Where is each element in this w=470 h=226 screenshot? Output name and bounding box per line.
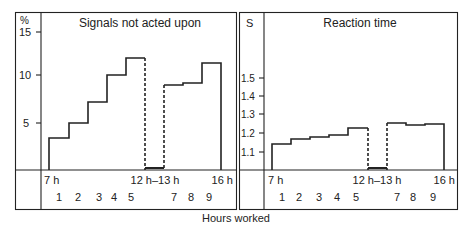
svg-text:1: 1 — [56, 191, 62, 203]
left-start-label: 7 h — [44, 174, 59, 186]
right-start-label: 7 h — [268, 174, 283, 186]
right-tick-1.4: 1.4 — [241, 91, 255, 102]
left-hour-labels: 1 2 3 4 5 7 8 9 — [56, 191, 212, 203]
left-unit: % — [20, 15, 29, 26]
right-title: Reaction time — [323, 16, 397, 30]
right-tick-1.1: 1.1 — [241, 147, 255, 158]
svg-text:2: 2 — [296, 191, 302, 203]
svg-text:5: 5 — [353, 191, 359, 203]
right-unit: S — [246, 17, 253, 29]
right-tick-1.5: 1.5 — [241, 73, 255, 84]
svg-text:1: 1 — [279, 191, 285, 203]
svg-text:7: 7 — [394, 191, 400, 203]
right-series — [272, 123, 444, 170]
left-tick-15: 15 — [19, 26, 31, 38]
svg-text:9: 9 — [206, 191, 212, 203]
right-tick-1.3: 1.3 — [241, 109, 255, 120]
svg-text:3: 3 — [96, 191, 102, 203]
right-tick-1.2: 1.2 — [241, 128, 255, 139]
left-lunch-label: 12 h–13 h — [131, 174, 180, 186]
figure: % 15 10 5 Signals not acted upon 7 h 12 … — [0, 0, 470, 226]
x-axis-label: Hours worked — [202, 212, 270, 224]
left-title: Signals not acted upon — [79, 16, 201, 30]
svg-text:3: 3 — [316, 191, 322, 203]
svg-text:4: 4 — [111, 191, 117, 203]
svg-text:4: 4 — [334, 191, 340, 203]
right-hour-labels: 1 2 3 4 5 7 8 9 — [279, 191, 436, 203]
svg-text:9: 9 — [430, 191, 436, 203]
left-end-label: 16 h — [212, 174, 233, 186]
right-lunch-label: 12 h–13 h — [353, 174, 402, 186]
svg-text:5: 5 — [128, 191, 134, 203]
left-tick-10: 10 — [19, 69, 31, 81]
left-tick-5: 5 — [23, 117, 29, 129]
svg-text:2: 2 — [75, 191, 81, 203]
left-series — [49, 58, 221, 170]
svg-text:8: 8 — [188, 191, 194, 203]
right-end-label: 16 h — [434, 174, 455, 186]
svg-text:8: 8 — [410, 191, 416, 203]
svg-text:7: 7 — [171, 191, 177, 203]
